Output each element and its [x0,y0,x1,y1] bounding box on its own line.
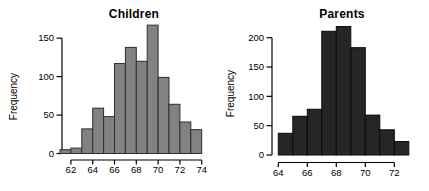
y-tick-label: 100 [38,71,54,82]
y-tick-label: 100 [248,91,264,102]
histogram-bar [125,47,136,153]
histogram-bar [380,130,395,155]
histogram-bar [191,130,202,154]
x-tick-label: 64 [273,167,284,178]
x-tick-label: 74 [196,164,207,175]
y-tick-label: 150 [248,61,264,72]
histogram-bar [307,109,322,155]
figure: 0501001506264666870727405010015020064666… [0,0,429,191]
x-tick-label: 68 [131,164,142,175]
histogram-bar [336,27,351,155]
histogram-bar [147,25,158,153]
histogram-bar [115,64,126,154]
y-tick-label: 0 [259,149,264,160]
y-tick-label: 50 [43,109,54,120]
x-tick-label: 66 [109,164,120,175]
histogram-bar [136,61,147,153]
y-tick-label: 50 [253,120,264,131]
histogram-bar [93,108,104,153]
histogram-bar [180,122,191,154]
histogram-bar [394,142,409,155]
x-tick-label: 64 [87,164,98,175]
x-tick-label: 72 [389,167,400,178]
histogram-bar [104,117,115,154]
x-tick-label: 68 [331,167,342,178]
y-tick-label: 200 [248,32,264,43]
y-tick-label: 150 [38,32,54,43]
x-tick-label: 66 [302,167,313,178]
x-tick-label: 70 [360,167,371,178]
histogram-bar [365,115,380,155]
y-axis-label-parents: Frequency [225,44,238,144]
histogram-bar [169,104,180,153]
chart-title-children: Children [64,7,204,21]
y-axis-label-children: Frequency [8,47,21,147]
histogram-bar [278,133,293,155]
chart-title-parents: Parents [272,7,412,21]
histogram-bar [60,150,71,154]
histogram-bar [351,48,366,155]
histogram-bar [293,116,308,155]
x-tick-label: 62 [66,164,77,175]
x-tick-label: 70 [153,164,164,175]
histogram-bar [322,31,337,155]
histogram-bar [82,129,93,154]
histogram-bar [158,77,169,153]
y-tick-label: 0 [49,148,54,159]
histograms-canvas: 0501001506264666870727405010015020064666… [0,0,429,191]
histogram-bar [71,148,82,153]
x-tick-label: 72 [175,164,186,175]
